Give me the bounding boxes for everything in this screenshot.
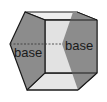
left-base-label: base: [14, 45, 42, 60]
right-base-label: base: [65, 38, 93, 53]
prism-diagram: base base: [0, 0, 107, 102]
